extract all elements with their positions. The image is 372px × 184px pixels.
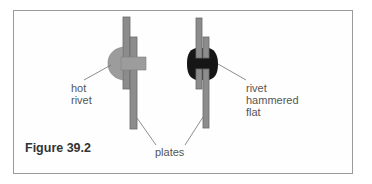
right-plate-upper-top xyxy=(196,18,202,58)
hammered-rivet-label-line3: flat xyxy=(246,106,299,118)
hammered-rivet-assembly xyxy=(185,18,246,145)
figure-caption: Figure 39.2 xyxy=(25,141,91,155)
right-plate-upper-bottom xyxy=(196,69,202,89)
plates-leader-left xyxy=(137,118,156,145)
left-plate-upper xyxy=(123,17,130,89)
hot-rivet-label: hot rivet xyxy=(71,82,92,106)
right-plate-lower-top xyxy=(203,37,209,58)
left-plate-lower xyxy=(130,37,137,129)
hammered-rivet-label: rivet hammered flat xyxy=(246,82,299,118)
plates-label: plates xyxy=(155,146,184,158)
hot-rivet-assembly xyxy=(84,17,156,145)
rivet-diagram xyxy=(0,0,372,184)
plates-leader-right xyxy=(185,117,203,145)
hot-rivet-label-line1: hot xyxy=(71,82,92,94)
hammered-rivet-body xyxy=(187,48,218,80)
hot-rivet-shaft xyxy=(121,57,146,70)
hot-rivet-leader xyxy=(84,65,111,80)
hot-rivet-label-line2: rivet xyxy=(71,94,92,106)
right-plate-lower-bottom xyxy=(203,69,209,128)
hammered-rivet-label-line2: hammered xyxy=(246,94,299,106)
hammered-rivet-leader xyxy=(218,64,246,80)
hammered-rivet-label-line1: rivet xyxy=(246,82,299,94)
